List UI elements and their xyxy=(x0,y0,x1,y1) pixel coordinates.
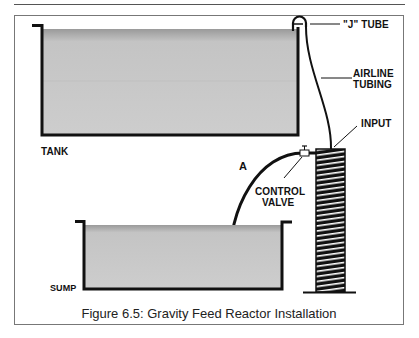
reactor-column xyxy=(303,149,356,293)
airline-label-line1: AIRLINE xyxy=(353,68,394,79)
tank-label: TANK xyxy=(41,146,68,157)
airline-tubing xyxy=(306,27,331,149)
input-leader xyxy=(334,126,357,147)
tank xyxy=(32,26,298,136)
sump-water xyxy=(85,225,281,288)
sump-label: SUMP xyxy=(50,283,76,294)
valve-leader xyxy=(284,157,302,178)
sump xyxy=(75,222,292,290)
tube-a-label: A xyxy=(239,161,247,172)
control-valve-label-line2: VALVE xyxy=(262,197,294,208)
j-tube-label: "J" TUBE xyxy=(343,19,389,30)
control-valve[interactable] xyxy=(300,146,309,156)
input-label: INPUT xyxy=(361,118,392,129)
figure-caption: Figure 6.5: Gravity Feed Reactor Install… xyxy=(14,306,404,321)
control-valve-label-line1: CONTROL xyxy=(255,186,305,197)
airline-label-line2: TUBING xyxy=(353,79,392,90)
tank-water xyxy=(43,29,297,134)
